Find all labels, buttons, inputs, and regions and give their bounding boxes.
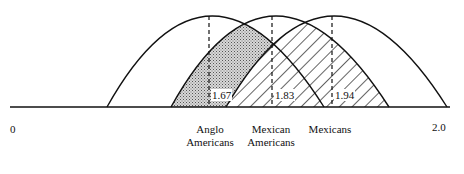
label-line: Americans	[182, 136, 238, 149]
label-line: Americans	[243, 136, 299, 149]
axis-min-label: 0	[10, 123, 16, 136]
axis-max-label: 2.0	[432, 121, 446, 134]
anglo-americans-label: Anglo Americans	[182, 123, 238, 149]
mexican-americans-label: Mexican Americans	[243, 123, 299, 149]
anglo-mean-value: 1.67	[211, 89, 232, 101]
distribution-diagram: 1.67 1.83 1.94 0 2.0 Anglo Americans Mex…	[0, 0, 464, 174]
mexicans-label: Mexicans	[305, 123, 355, 136]
mexican-american-mean-value: 1.83	[274, 89, 295, 101]
label-line: Mexican	[243, 123, 299, 136]
label-line: Anglo	[182, 123, 238, 136]
mexican-mean-value: 1.94	[334, 89, 355, 101]
label-line: Mexicans	[305, 123, 355, 136]
